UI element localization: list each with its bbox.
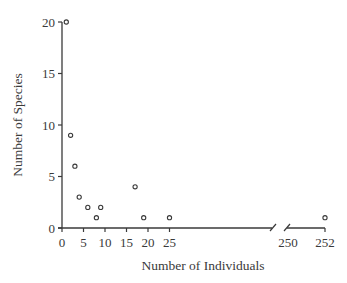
data-point (323, 216, 327, 220)
data-point (142, 216, 146, 220)
data-point (73, 164, 77, 168)
data-point (94, 216, 98, 220)
data-point (133, 185, 137, 189)
y-tick-label: 0 (49, 221, 56, 236)
y-tick-label: 10 (42, 118, 55, 133)
scatter-chart: 051015200510152025250252 Number of Indiv… (0, 0, 347, 283)
x-axis-title: Number of Individuals (142, 258, 265, 273)
y-axis-title: Number of Species (10, 73, 25, 176)
x-tick-label: 15 (120, 235, 133, 250)
y-tick-label: 20 (42, 15, 55, 30)
data-points (64, 20, 327, 220)
x-tick-label: 25 (163, 235, 176, 250)
data-point (99, 205, 103, 209)
data-point (86, 205, 90, 209)
y-tick-label: 15 (42, 66, 55, 81)
x-tick-label: 20 (142, 235, 155, 250)
axes: 051015200510152025250252 (42, 15, 335, 251)
x-tick-label: 0 (59, 235, 66, 250)
x-tick-label: 10 (99, 235, 112, 250)
data-point (167, 216, 171, 220)
x-tick-label: 250 (278, 235, 298, 250)
data-point (69, 133, 73, 137)
data-point (77, 195, 81, 199)
x-tick-label: 5 (80, 235, 87, 250)
data-point (64, 20, 68, 24)
y-tick-label: 5 (49, 169, 56, 184)
x-tick-label: 252 (315, 235, 335, 250)
